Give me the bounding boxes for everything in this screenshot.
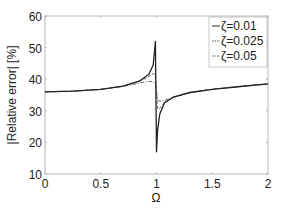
x-tick-label: 0 [42,177,49,191]
y-tick-label: 10 [29,168,43,182]
x-tick-label: 1 [153,177,160,191]
y-tick-label: 40 [29,73,43,87]
x-tick-label: 2 [265,177,272,191]
relative-error-chart: 102030405060 00.511.52 |Relative error| … [0,0,284,209]
y-tick-label: 50 [29,42,43,56]
y-tick-label: 20 [29,136,43,150]
x-axis-label: Ω [152,191,161,205]
y-axis-label: |Relative error| [%] [5,46,19,145]
legend: ζ=0.01ζ=0.025ζ=0.05 [209,17,267,67]
y-tick-label: 30 [29,105,43,119]
legend-item-label: ζ=0.01 [221,19,257,33]
x-tick-label: 0.5 [92,177,109,191]
x-tick-label: 1.5 [204,177,221,191]
legend-item-label: ζ=0.025 [221,34,264,48]
legend-item-label: ζ=0.05 [221,49,257,63]
y-tick-label: 60 [29,10,43,24]
